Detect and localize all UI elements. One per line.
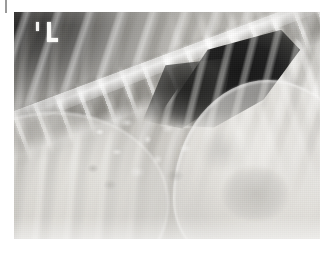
corner-tick-mark <box>5 0 7 13</box>
radiographic-side-marker <box>42 22 55 42</box>
radiograph-image[interactable] <box>14 12 320 239</box>
marker-tick <box>36 22 39 31</box>
side-marker-foot <box>47 38 58 42</box>
radiograph-viewer[interactable] <box>0 0 329 254</box>
viscus-shadow <box>222 166 289 220</box>
viscus-shadow-upper <box>198 130 247 171</box>
